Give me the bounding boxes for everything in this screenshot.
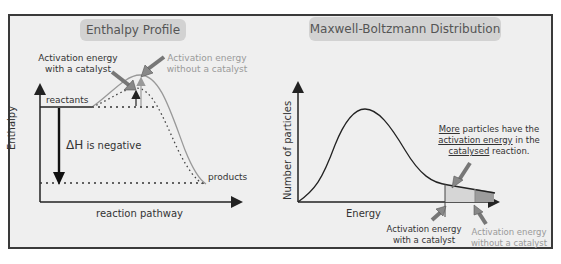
note-catalysed: catalysed bbox=[449, 146, 490, 156]
note-rest1: particles have the bbox=[460, 124, 539, 134]
ea-with-catalyst-line2: with a catalyst bbox=[38, 64, 118, 75]
mb-x-axis-label: Energy bbox=[346, 208, 381, 219]
ea-without-catalyst-label: Activation energy without a catalyst bbox=[165, 53, 249, 75]
mb-ea-without-catalyst-line1: Activation energy bbox=[463, 227, 555, 238]
mb-title: Maxwell-Boltzmann Distribution bbox=[309, 17, 501, 41]
ea-without-catalyst-line1: Activation energy bbox=[165, 53, 249, 64]
mb-y-axis-label: Number of particles bbox=[282, 101, 293, 200]
note-rest2: in the bbox=[513, 135, 540, 145]
mb-catalyst-pointer-arrow bbox=[432, 206, 446, 220]
products-label: products bbox=[208, 172, 247, 183]
mb-note: More particles have the activation energ… bbox=[430, 124, 548, 157]
uncatalysed-curve bbox=[92, 75, 206, 184]
mb-ea-with-catalyst-line2: with a catalyst bbox=[382, 235, 466, 246]
delta-h-label: ΔH is negative bbox=[66, 140, 141, 151]
no-catalyst-pointer-arrow bbox=[141, 57, 164, 77]
enthalpy-y-axis-label: Enthalpy bbox=[6, 106, 17, 150]
note-activation-energy: activation energy bbox=[438, 135, 512, 145]
ea-without-catalyst-line2: without a catalyst bbox=[165, 64, 249, 75]
mb-ea-with-catalyst-line1: Activation energy bbox=[382, 224, 466, 235]
mb-ea-with-catalyst-label: Activation energy with a catalyst bbox=[382, 224, 466, 246]
enthalpy-title: Enthalpy Profile bbox=[80, 19, 186, 41]
delta-h-symbol: ΔH bbox=[66, 138, 83, 152]
enthalpy-x-axis-label: reaction pathway bbox=[96, 208, 183, 219]
note-rest3: reaction. bbox=[489, 146, 529, 156]
reactants-label: reactants bbox=[46, 95, 88, 106]
catalysed-curve bbox=[92, 88, 203, 184]
mb-ea-without-catalyst-line2: without a catalyst bbox=[463, 238, 555, 249]
note-pointer-arrow bbox=[452, 163, 470, 188]
mb-ea-without-catalyst-label: Activation energy without a catalyst bbox=[463, 227, 555, 249]
delta-h-text: is negative bbox=[83, 140, 141, 151]
mb-no-catalyst-pointer-arrow bbox=[474, 205, 486, 224]
ea-with-catalyst-label: Activation energy with a catalyst bbox=[38, 53, 118, 75]
note-more: More bbox=[439, 124, 460, 134]
ea-with-catalyst-line1: Activation energy bbox=[38, 53, 118, 64]
